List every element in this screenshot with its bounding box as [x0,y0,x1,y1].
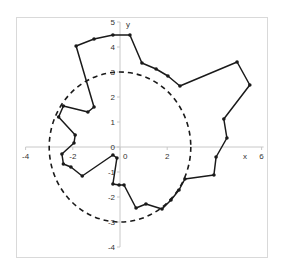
data-point [60,152,64,156]
data-point [115,156,119,160]
data-point [86,110,90,114]
data-point [222,117,226,121]
data-point [73,133,77,137]
x-axis-label: x [243,152,247,161]
data-point [92,105,96,109]
data-point [57,115,61,119]
y-tick-label: -2 [108,193,116,202]
y-tick-label: -3 [108,218,116,227]
x-tick-label: 6 [259,152,264,161]
data-point [140,61,144,65]
data-point [92,37,96,41]
data-point [214,155,218,159]
data-point [248,83,252,87]
plot-frame [17,18,268,258]
data-point [69,165,73,169]
y-tick-label: 4 [111,43,116,52]
y-tick-label: 1 [111,118,116,127]
y-tick-label: -4 [108,243,116,252]
data-point [225,136,229,140]
data-point [154,67,158,71]
y-tick-label: 2 [111,93,116,102]
data-point [122,183,126,187]
data-point [80,174,84,178]
data-point [62,104,66,108]
data-point [111,153,115,157]
y-tick-label: 3 [111,68,116,77]
chart: -4-2026543210-1-2-3-4xy [0,0,282,268]
data-point [160,207,164,211]
y-axis-label: y [126,20,130,29]
data-point [235,60,239,64]
y-tick-label: 0 [111,143,116,152]
data-point [72,141,76,145]
x-tick-label: -4 [22,152,30,161]
data-point [111,182,115,186]
data-point [144,202,148,206]
data-point [117,183,121,187]
data-point [62,162,66,166]
data-point [111,33,115,37]
data-point [166,74,170,78]
data-point [183,177,187,181]
y-tick-label: -1 [108,168,116,177]
data-point [212,173,216,177]
y-tick-label: 5 [111,18,116,27]
x-tick-label: -2 [69,152,77,161]
data-point [74,44,78,48]
x-tick-label: 2 [165,152,170,161]
x-tick-label: 0 [123,152,128,161]
data-point [178,84,182,88]
data-point [169,198,173,202]
data-point [128,33,132,37]
data-point [134,206,138,210]
data-point [177,188,181,192]
